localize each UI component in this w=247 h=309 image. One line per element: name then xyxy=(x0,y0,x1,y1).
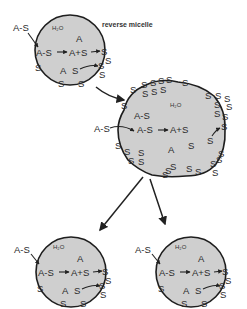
free-A-label: A xyxy=(198,253,205,264)
free-S-label: S xyxy=(195,285,201,296)
free-S-label: S xyxy=(74,285,80,296)
free-A-label: A xyxy=(76,33,83,44)
water-label: H₂O xyxy=(170,102,182,108)
svg-text:S: S xyxy=(201,298,207,309)
free-A-label-2: A xyxy=(60,65,67,76)
svg-text:S: S xyxy=(35,62,41,73)
svg-text:S: S xyxy=(170,161,176,172)
free-S-label-2: S xyxy=(207,135,213,146)
svg-text:S: S xyxy=(166,74,172,85)
complex-label: A-S xyxy=(159,267,175,278)
svg-text:S: S xyxy=(151,86,157,97)
svg-text:S: S xyxy=(80,298,86,309)
incoming-complex: A-S xyxy=(14,244,30,255)
water-label: H₂O xyxy=(175,244,187,250)
svg-text:S: S xyxy=(138,156,144,167)
svg-text:S: S xyxy=(182,77,188,88)
svg-text:S: S xyxy=(195,166,201,177)
svg-text:S: S xyxy=(160,84,166,95)
svg-text:S: S xyxy=(212,167,218,178)
svg-text:S: S xyxy=(225,275,231,286)
products-label: A+S xyxy=(69,47,87,58)
svg-text:S: S xyxy=(115,140,121,151)
svg-text:S: S xyxy=(100,289,106,300)
free-A-label: A xyxy=(168,144,175,155)
free-S-label: S xyxy=(72,65,78,76)
fission-arrow-left xyxy=(100,177,143,230)
water-label: H₂O xyxy=(53,244,65,250)
water-label: H₂O xyxy=(52,25,64,31)
svg-text:S: S xyxy=(142,88,148,99)
svg-text:S: S xyxy=(37,283,43,294)
svg-text:S: S xyxy=(78,78,84,89)
free-A-label-2: A xyxy=(183,285,190,296)
products-label: A+S xyxy=(71,267,89,278)
svg-text:S: S xyxy=(181,298,187,309)
svg-text:S: S xyxy=(128,155,134,166)
svg-text:S: S xyxy=(221,121,227,132)
svg-text:S: S xyxy=(158,283,164,294)
svg-text:S: S xyxy=(105,275,111,286)
incoming-complex: A-S xyxy=(135,244,151,255)
svg-text:S: S xyxy=(58,78,64,89)
svg-text:S: S xyxy=(186,163,192,174)
complex-label: A-S xyxy=(137,124,153,135)
growth-arrow xyxy=(96,87,124,100)
reverse-micelle-diagram: reverse micelle H₂O A-S A A-S A+S A S S … xyxy=(0,0,247,309)
reverse-micelle-label: reverse micelle xyxy=(102,21,153,28)
products-label: A+S xyxy=(192,267,210,278)
svg-text:S: S xyxy=(162,169,168,180)
complex-label: A-S xyxy=(38,267,54,278)
complex-label: A-S xyxy=(36,47,52,58)
free-S-label: S xyxy=(188,140,194,151)
svg-text:S: S xyxy=(130,84,136,95)
svg-text:S: S xyxy=(60,298,66,309)
svg-text:S: S xyxy=(220,289,226,300)
micelle-daughter-right: H₂O A-S A A-S A+S A S S S S S S S S xyxy=(135,237,231,309)
micelle-initial: reverse micelle H₂O A-S A A-S A+S A S S … xyxy=(13,15,153,89)
free-A-label-2: A xyxy=(62,285,69,296)
svg-text:S: S xyxy=(99,69,105,80)
micelle-daughter-left: H₂O A-S A A-S A+S A S S S S S S S S xyxy=(14,237,111,309)
products-label: A+S xyxy=(170,124,188,135)
svg-text:S: S xyxy=(214,108,220,119)
svg-text:S: S xyxy=(105,55,111,66)
incoming-complex: A-S xyxy=(94,123,110,134)
svg-text:S: S xyxy=(218,148,224,159)
micelle-grown: H₂O A-S A-S A-S A+S A S S S S S S S S S … xyxy=(94,74,232,180)
svg-text:S: S xyxy=(205,90,211,101)
svg-text:S: S xyxy=(121,100,127,111)
fission-arrow-right xyxy=(150,179,165,224)
complex-upper-label: A-S xyxy=(134,110,150,121)
free-A-label: A xyxy=(77,253,84,264)
incoming-complex: A-S xyxy=(13,22,29,33)
